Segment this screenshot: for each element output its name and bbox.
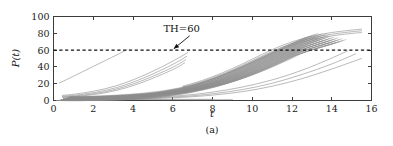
data-series-group xyxy=(57,29,362,101)
x-tick-label: 2 xyxy=(90,103,96,114)
y-tick-label: 0 xyxy=(43,95,49,106)
figure-caption: (a) xyxy=(205,124,218,135)
data-curve xyxy=(65,54,355,100)
threshold-group xyxy=(54,36,372,50)
y-tick-label: 80 xyxy=(37,28,49,39)
y-tick-label: 20 xyxy=(37,78,49,89)
y-tick-label: 100 xyxy=(31,11,49,22)
x-tick-label: 6 xyxy=(170,103,176,114)
y-tick-label: 40 xyxy=(37,61,49,72)
threshold-annotation-label: TH=60 xyxy=(163,23,200,34)
x-tick-label: 0 xyxy=(50,103,56,114)
x-tick-label: 14 xyxy=(326,103,338,114)
data-curve xyxy=(62,53,187,96)
chart-canvas: 0246810121416 020406080100 t P(t) (a) TH… xyxy=(0,0,393,146)
data-curve xyxy=(59,50,127,83)
figure-panel: 0246810121416 020406080100 t P(t) (a) TH… xyxy=(0,0,393,146)
y-axis-tick-labels: 020406080100 xyxy=(31,11,49,106)
x-tick-label: 16 xyxy=(365,103,377,114)
x-tick-label: 12 xyxy=(286,103,298,114)
x-tick-label: 4 xyxy=(130,103,136,114)
y-tick-label: 60 xyxy=(37,45,49,56)
x-tick-label: 10 xyxy=(246,103,258,114)
y-axis-title: P(t) xyxy=(10,49,21,69)
